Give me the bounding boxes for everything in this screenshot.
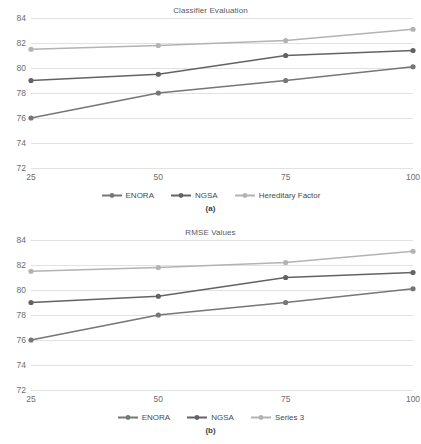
series-line [31, 251, 413, 271]
legend-label: Hereditary Factor [259, 191, 321, 200]
legend-swatch-icon [234, 191, 256, 200]
legend-label: NGSA [211, 413, 234, 422]
x-tick-label: 75 [281, 172, 290, 182]
y-tick-label: 80 [17, 63, 26, 73]
y-tick-label: 76 [17, 335, 26, 345]
data-point-marker [28, 115, 33, 120]
legend-swatch-icon [117, 413, 139, 422]
data-point-marker [283, 260, 288, 265]
data-point-marker [28, 78, 33, 83]
data-point-marker [28, 269, 33, 274]
plot-canvas-a [31, 18, 413, 168]
gridline [31, 390, 413, 391]
gridline [31, 168, 413, 169]
y-tick-label: 84 [17, 235, 26, 245]
legend-label: ENORA [142, 413, 170, 422]
data-point-marker [156, 294, 161, 299]
series-line [31, 289, 413, 340]
legend-item[interactable]: ENORA [117, 413, 170, 422]
legend-swatch-icon [170, 191, 192, 200]
data-point-marker [28, 300, 33, 305]
data-point-marker [410, 249, 415, 254]
y-tick-label: 72 [17, 163, 26, 173]
legend-item[interactable]: NGSA [186, 413, 234, 422]
legend-item[interactable]: NGSA [170, 191, 218, 200]
legend-label: NGSA [195, 191, 218, 200]
y-tick-label: 78 [17, 88, 26, 98]
y-tick-label: 82 [17, 260, 26, 270]
y-tick-label: 74 [17, 138, 26, 148]
data-point-marker [410, 48, 415, 53]
data-point-marker [156, 90, 161, 95]
y-tick-label: 74 [17, 360, 26, 370]
y-tick-label: 84 [17, 13, 26, 23]
y-tick-label: 72 [17, 385, 26, 395]
chart-title-a: Classifier Evaluation [0, 6, 421, 15]
data-point-marker [410, 27, 415, 32]
chart-panel-b: RMSE Values 72747678808284 255075100 ENO… [0, 222, 421, 444]
x-tick-label: 25 [26, 172, 35, 182]
panel-caption-a: (a) [0, 204, 421, 213]
x-tick-label: 50 [154, 394, 163, 404]
data-point-marker [156, 43, 161, 48]
plot-area-a: 72747678808284 [0, 18, 421, 168]
data-point-marker [410, 270, 415, 275]
legend-item[interactable]: Series 3 [250, 413, 304, 422]
series-line [31, 273, 413, 303]
legend-swatch-icon [250, 413, 272, 422]
legend-b: ENORANGSASeries 3 [0, 410, 421, 424]
y-tick-label: 80 [17, 285, 26, 295]
data-point-marker [410, 286, 415, 291]
x-tick-label: 50 [154, 172, 163, 182]
data-point-marker [156, 312, 161, 317]
y-axis-labels-a: 72747678808284 [0, 18, 30, 168]
data-point-marker [28, 47, 33, 52]
chart-panel-a: Classifier Evaluation 72747678808284 255… [0, 0, 421, 222]
legend-a: ENORANGSAHereditary Factor [0, 188, 421, 202]
series-line [31, 51, 413, 81]
series-lines-b [31, 240, 413, 390]
x-axis-labels-a: 255075100 [31, 172, 413, 186]
legend-label: ENORA [126, 191, 154, 200]
x-tick-label: 100 [406, 172, 420, 182]
y-tick-label: 76 [17, 113, 26, 123]
x-tick-label: 25 [26, 394, 35, 404]
y-tick-label: 82 [17, 38, 26, 48]
data-point-marker [283, 275, 288, 280]
x-tick-label: 100 [406, 394, 420, 404]
plot-canvas-b [31, 240, 413, 390]
y-tick-label: 78 [17, 310, 26, 320]
series-lines-a [31, 18, 413, 168]
data-point-marker [283, 38, 288, 43]
x-axis-labels-b: 255075100 [31, 394, 413, 408]
legend-item[interactable]: Hereditary Factor [234, 191, 321, 200]
series-line [31, 29, 413, 49]
panel-caption-b: (b) [0, 426, 421, 435]
data-point-marker [156, 265, 161, 270]
data-point-marker [283, 53, 288, 58]
data-point-marker [410, 64, 415, 69]
data-point-marker [156, 72, 161, 77]
legend-label: Series 3 [275, 413, 304, 422]
y-axis-labels-b: 72747678808284 [0, 240, 30, 390]
chart-title-b: RMSE Values [0, 228, 421, 237]
data-point-marker [283, 78, 288, 83]
legend-item[interactable]: ENORA [101, 191, 154, 200]
plot-area-b: 72747678808284 [0, 240, 421, 390]
data-point-marker [28, 337, 33, 342]
data-point-marker [283, 300, 288, 305]
x-tick-label: 75 [281, 394, 290, 404]
series-line [31, 67, 413, 118]
figure-container: Classifier Evaluation 72747678808284 255… [0, 0, 421, 444]
legend-swatch-icon [186, 413, 208, 422]
legend-swatch-icon [101, 191, 123, 200]
